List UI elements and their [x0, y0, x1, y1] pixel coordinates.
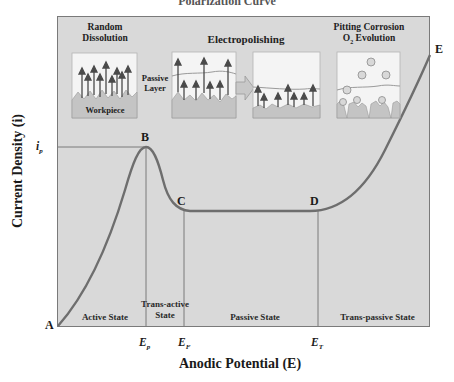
- region-trans-passive-state: Trans-passive State: [330, 312, 425, 322]
- polarization-plot: [0, 0, 454, 382]
- inset-title-line1: Pitting Corrosion: [328, 22, 410, 33]
- workpiece-label: Workpiece: [72, 105, 138, 115]
- tick-sub: p: [39, 147, 43, 155]
- inset-electropolishing-after: [253, 52, 320, 118]
- region-active-state: Active State: [70, 312, 140, 322]
- x-tick-et: ET: [311, 336, 323, 351]
- point-c-label: C: [177, 194, 186, 209]
- inset-title-pitting: Pitting Corrosion O2 Evolution: [328, 22, 410, 48]
- y-axis-label: Current Density (i): [10, 91, 26, 251]
- inset-title-random-dissolution: Random Dissolution: [72, 22, 138, 44]
- point-b-label: B: [141, 130, 149, 145]
- inset-title-electropolishing: Electropolishing: [172, 33, 320, 45]
- region-line2: State: [138, 310, 192, 321]
- inset-title-line2: Dissolution: [72, 33, 138, 44]
- tick-main: E: [139, 336, 147, 348]
- transition-arrow-icon: [236, 76, 254, 100]
- inset-title-line1: Random: [72, 22, 138, 33]
- passive-layer-line2: Layer: [138, 83, 172, 93]
- x-tick-ep: Ep: [139, 336, 150, 351]
- point-e-label: E: [435, 42, 443, 57]
- x-axis-label: Anodic Potential (E): [140, 356, 340, 372]
- inset-pitting-corrosion: [337, 52, 400, 118]
- tick-sub: p: [147, 343, 151, 351]
- tick-main: E: [311, 336, 319, 348]
- passive-layer-line1: Passive: [138, 73, 172, 83]
- region-line1: Trans-active: [138, 299, 192, 310]
- evolution-text: Evolution: [353, 33, 395, 43]
- region-trans-active-state: Trans-active State: [138, 299, 192, 321]
- x-tick-ef: EF: [178, 336, 190, 351]
- tick-main: E: [178, 336, 186, 348]
- point-d-label: D: [310, 194, 319, 209]
- y-tick-ip: ip: [36, 140, 43, 155]
- passive-layer-label: Passive Layer: [138, 73, 172, 93]
- tick-sub: F: [186, 343, 191, 351]
- region-passive-state: Passive State: [210, 312, 300, 322]
- inset-electropolishing-before: [172, 52, 236, 118]
- tick-sub: T: [319, 343, 323, 351]
- inset-title-line2: O2 Evolution: [328, 33, 410, 48]
- point-a-label: A: [45, 318, 54, 333]
